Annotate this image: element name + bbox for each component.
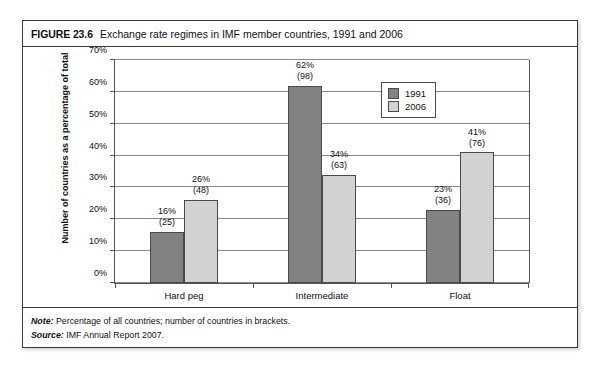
source-keyword: Source:	[31, 330, 64, 340]
bar-value-1991-intermediate: 62%	[296, 60, 314, 71]
source-line: Source: IMF Annual Report 2007.	[31, 328, 577, 342]
source-text: IMF Annual Report 2007.	[66, 330, 164, 340]
ytick-label-0: 0%	[94, 268, 107, 278]
bar-value-2006-intermediate: 34%	[330, 149, 348, 160]
xtick-mark-2	[391, 283, 392, 288]
bar-value-2006-float: 41%	[468, 127, 486, 138]
bar-label-1991-float: 23% (36)	[434, 184, 452, 206]
bar-group-intermediate: 62% (98) 34% (63) Intermediate	[253, 60, 391, 283]
bar-count-2006-float: (76)	[468, 138, 486, 149]
bar-label-1991-intermediate: 62% (98)	[296, 60, 314, 82]
xtick-mark-0	[115, 283, 116, 288]
ytick-label-20: 20%	[89, 204, 107, 214]
bar-count-2006-hard-peg: (48)	[192, 185, 210, 196]
y-axis-title: Number of countries as a percentage of t…	[60, 43, 70, 253]
figure-title: Exchange rate regimes in IMF member coun…	[100, 28, 403, 40]
figure-notes: Note: Percentage of all countries; numbe…	[23, 307, 577, 347]
bar-label-1991-hard-peg: 16% (25)	[158, 206, 176, 228]
note-keyword: Note:	[31, 316, 53, 326]
ytick-label-70: 70%	[89, 45, 107, 55]
figure-header: FIGURE 23.6 Exchange rate regimes in IMF…	[23, 21, 577, 47]
bar-value-1991-float: 23%	[434, 184, 452, 195]
xtick-mark-3	[528, 283, 529, 288]
bar-group-hard-peg: 16% (25) 26% (48) Hard peg	[115, 60, 253, 283]
bar-label-2006-intermediate: 34% (63)	[330, 149, 348, 171]
bar-value-2006-hard-peg: 26%	[192, 174, 210, 185]
ytick-label-40: 40%	[89, 141, 107, 151]
plot-area: 0% 10% 20% 30% 40% 50% 60% 70% 16% (25)	[114, 60, 529, 284]
xtick-mark-1	[253, 283, 254, 288]
chart-area: Number of countries as a percentage of t…	[23, 47, 577, 309]
bar-value-1991-hard-peg: 16%	[158, 206, 176, 217]
bar-label-2006-float: 41% (76)	[468, 127, 486, 149]
note-text: Percentage of all countries; number of c…	[56, 316, 290, 326]
legend-swatch-1991-icon	[388, 88, 399, 99]
figure-container: FIGURE 23.6 Exchange rate regimes in IMF…	[22, 20, 578, 348]
bar-1991-intermediate[interactable]	[288, 86, 322, 284]
category-label-intermediate: Intermediate	[296, 290, 349, 301]
legend-swatch-2006-icon	[388, 101, 399, 112]
legend-item-2006[interactable]: 2006	[388, 100, 426, 113]
chart-legend: 1991 2006	[381, 82, 436, 118]
bar-1991-float[interactable]	[426, 210, 460, 283]
category-label-hard-peg: Hard peg	[164, 290, 203, 301]
bar-1991-hard-peg[interactable]	[150, 232, 184, 283]
ytick-label-30: 30%	[89, 172, 107, 182]
bar-count-1991-float: (36)	[434, 195, 452, 206]
legend-label-1991: 1991	[405, 88, 426, 99]
ytick-label-10: 10%	[89, 236, 107, 246]
legend-item-1991[interactable]: 1991	[388, 87, 426, 100]
figure-number: FIGURE 23.6	[31, 28, 93, 40]
ytick-label-50: 50%	[89, 109, 107, 119]
legend-label-2006: 2006	[405, 101, 426, 112]
bar-2006-intermediate[interactable]	[322, 175, 356, 283]
bar-label-2006-hard-peg: 26% (48)	[192, 174, 210, 196]
bar-count-1991-intermediate: (98)	[296, 71, 314, 82]
bar-count-2006-intermediate: (63)	[330, 160, 348, 171]
plot-frame-right	[529, 60, 530, 283]
bar-2006-float[interactable]	[460, 152, 494, 283]
note-line: Note: Percentage of all countries; numbe…	[31, 314, 577, 328]
bar-count-1991-hard-peg: (25)	[158, 217, 176, 228]
ytick-label-60: 60%	[89, 77, 107, 87]
category-label-float: Float	[449, 290, 470, 301]
bar-2006-hard-peg[interactable]	[184, 200, 218, 283]
